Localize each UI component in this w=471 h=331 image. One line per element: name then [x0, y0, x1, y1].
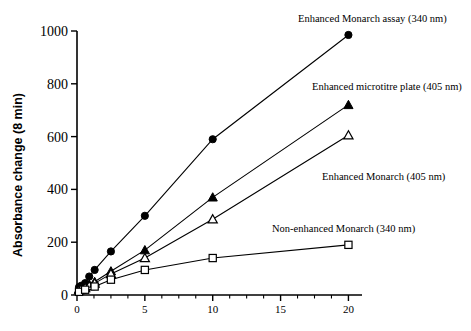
y-axis-title: Absorbance change (8 min): [11, 93, 25, 257]
y-tick-label: 200: [47, 235, 68, 250]
absorbance-line-chart: Absorbance change (8 min) 02004006008001…: [0, 0, 471, 331]
data-point-marker: [209, 136, 216, 143]
chart-figure: Absorbance change (8 min) 02004006008001…: [0, 0, 471, 331]
series-annotation-label-1: Enhanced microtitre plate (405 nm): [312, 81, 462, 93]
data-point-marker: [107, 276, 114, 283]
annotation-labels-group: Enhanced Monarch assay (340 nm)Enhanced …: [272, 13, 462, 235]
y-axis-tick-labels: 02004006008001000: [40, 24, 68, 303]
y-tick-label: 400: [47, 182, 68, 197]
data-point-marker: [91, 283, 98, 290]
series-line-3: [79, 245, 348, 292]
x-axis-ticks: [77, 295, 348, 301]
data-point-marker: [91, 266, 98, 273]
data-point-marker: [141, 212, 148, 219]
data-point-marker: [141, 266, 148, 273]
x-tick-label: 0: [74, 303, 80, 315]
data-point-marker: [345, 31, 352, 38]
series-annotation-label-0: Enhanced Monarch assay (340 nm): [298, 13, 447, 25]
data-point-marker: [209, 254, 216, 261]
series-line-2: [79, 135, 348, 290]
y-tick-label: 0: [61, 288, 68, 303]
data-point-marker: [107, 248, 114, 255]
series-markers-0: [75, 31, 352, 290]
data-point-marker: [140, 253, 149, 261]
x-tick-label: 10: [207, 303, 219, 315]
series-annotation-label-3: Non-enhanced Monarch (340 nm): [272, 223, 416, 235]
data-point-marker: [344, 131, 353, 139]
x-tick-label: 20: [343, 303, 355, 315]
y-axis-ticks: [71, 31, 77, 295]
data-point-marker: [208, 215, 217, 223]
series-markers-group: [74, 31, 353, 295]
series-annotation-label-2: Enhanced Monarch (405 nm): [322, 171, 446, 183]
data-point-marker: [344, 100, 353, 108]
series-markers-1: [74, 100, 353, 293]
y-tick-label: 600: [47, 130, 68, 145]
data-point-marker: [82, 286, 89, 293]
series-markers-3: [75, 241, 352, 295]
x-tick-label: 5: [142, 303, 148, 315]
x-axis-tick-labels: 05101520: [74, 303, 354, 315]
data-point-marker: [208, 193, 217, 201]
series-markers-2: [74, 131, 353, 294]
series-lines-group: [79, 35, 348, 292]
y-tick-label: 800: [47, 77, 68, 92]
y-tick-label: 1000: [40, 24, 68, 39]
data-point-marker: [345, 241, 352, 248]
x-tick-label: 15: [275, 303, 287, 315]
